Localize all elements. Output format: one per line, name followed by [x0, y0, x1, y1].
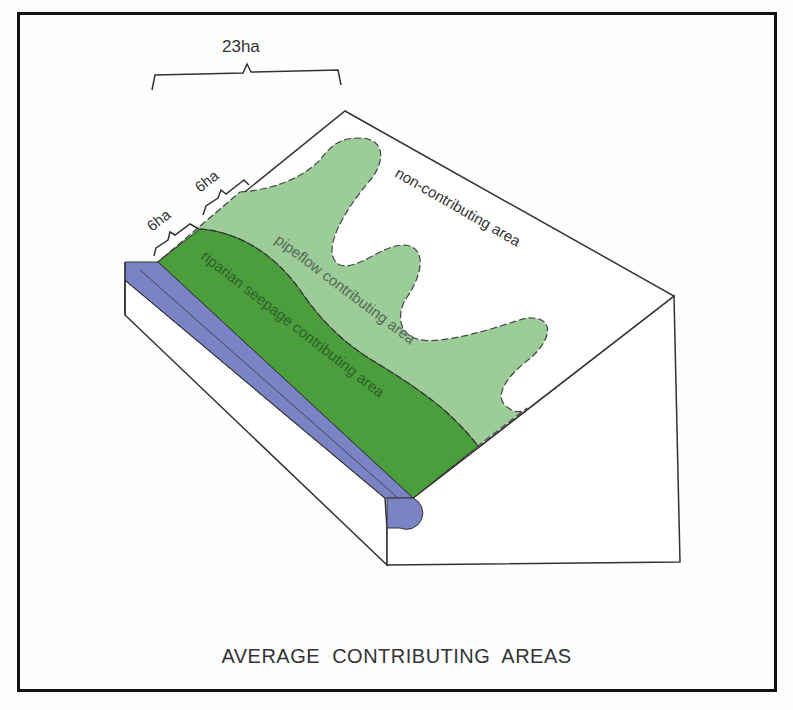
figure-caption: AVERAGE CONTRIBUTING AREAS	[0, 645, 793, 668]
caption-text: AVERAGE CONTRIBUTING AREAS	[221, 645, 571, 667]
stream-end-cap	[387, 498, 423, 529]
label-23ha: 23ha	[222, 37, 260, 56]
bracket-23ha	[152, 64, 341, 90]
hillslope-diagram: 23ha 6ha 6ha non-contributing area pipef…	[0, 0, 793, 710]
label-pipeflow-6ha: 6ha	[191, 166, 222, 195]
label-riparian-6ha: 6ha	[143, 205, 174, 234]
